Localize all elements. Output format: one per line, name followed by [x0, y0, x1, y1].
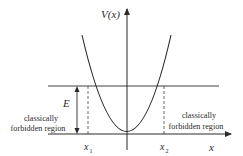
energy-arrow-head-up: [75, 86, 80, 92]
x2-label: x: [159, 141, 165, 152]
left-forbidden-label-line1: classically: [24, 114, 59, 123]
x1-subscript: 1: [90, 148, 93, 154]
y-axis-label: V(x): [101, 8, 120, 21]
right-forbidden-label-line1: classically: [182, 111, 217, 120]
energy-label: E: [62, 97, 70, 109]
energy-arrow-head-down: [75, 128, 80, 134]
x2-subscript: 2: [166, 148, 169, 154]
x-axis-label: x: [208, 141, 214, 153]
x1-label: x: [83, 141, 89, 152]
left-forbidden-label-line2: forbidden region: [11, 124, 66, 133]
right-forbidden-label-line2: forbidden region: [169, 122, 224, 131]
potential-well-diagram: V(x) x E x 1 x 2 classically forbidden r…: [0, 0, 243, 156]
